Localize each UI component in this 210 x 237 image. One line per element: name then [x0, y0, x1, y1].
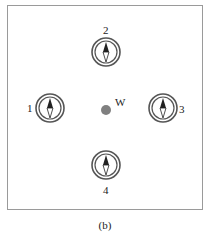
compass-4-icon — [92, 151, 120, 179]
compass-2-icon — [92, 38, 120, 66]
figure-caption: (b) — [0, 219, 210, 231]
compass-4-label: 4 — [103, 185, 109, 196]
compass-1-icon — [36, 94, 64, 122]
compass-3-icon — [149, 94, 177, 122]
point-w-label: W — [115, 97, 125, 108]
compass-1-label: 1 — [27, 103, 33, 114]
compass-2-label: 2 — [103, 25, 109, 36]
compass-3-label: 3 — [179, 104, 185, 115]
point-w-marker — [101, 105, 111, 115]
